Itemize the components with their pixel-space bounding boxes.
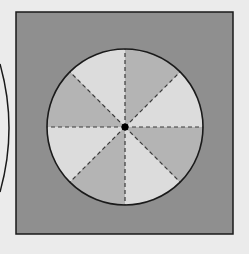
circle-in-square-diagram (0, 0, 249, 254)
center-point (122, 124, 129, 131)
